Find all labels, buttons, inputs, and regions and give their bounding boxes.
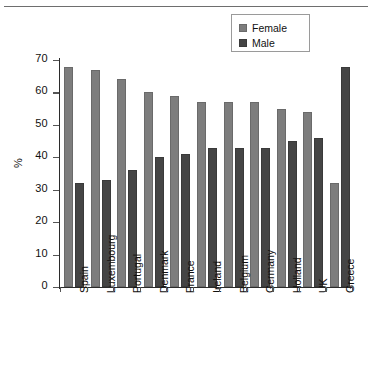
- x-axis-label: Spain: [78, 266, 90, 293]
- x-tick-mark: [272, 287, 273, 292]
- y-tick-label: 20: [35, 214, 48, 226]
- y-tick-label: 0: [42, 279, 48, 291]
- bar-group: [197, 60, 217, 287]
- male-swatch-icon: [239, 39, 247, 47]
- chart-legend: Female Male: [231, 14, 310, 52]
- y-tick-mark: [53, 92, 59, 93]
- bar-group: [303, 60, 323, 287]
- x-tick-mark: [219, 287, 220, 292]
- x-axis-label: Holland: [291, 257, 303, 293]
- legend-item-female: Female: [239, 20, 309, 35]
- y-tick-mark: [53, 157, 59, 158]
- x-axis-label: UK: [317, 278, 329, 293]
- bar-chart-figure: % 010203040506070 SpainLuxembourgPortuga…: [0, 0, 372, 368]
- x-axis-label: Portugal: [131, 254, 143, 293]
- female-swatch-icon: [239, 24, 247, 32]
- y-tick-label: 30: [35, 182, 48, 194]
- bar-female: [91, 70, 100, 287]
- bar-female: [250, 102, 259, 287]
- y-tick-mark: [53, 190, 59, 191]
- bar-female: [224, 102, 233, 287]
- y-axis-label: %: [12, 158, 24, 168]
- y-tick-mark: [53, 60, 59, 61]
- bar-female: [170, 96, 179, 287]
- bar-female: [117, 79, 126, 287]
- x-axis-label: Belgium: [238, 255, 250, 293]
- x-tick-mark: [246, 287, 247, 292]
- x-tick-mark: [87, 287, 88, 292]
- x-tick-mark: [140, 287, 141, 292]
- bar-female: [144, 92, 153, 287]
- x-tick-mark: [166, 287, 167, 292]
- bar-group: [64, 60, 84, 287]
- bar-female: [197, 102, 206, 287]
- y-tick-mark: [53, 255, 59, 256]
- x-axis-line: [59, 287, 353, 288]
- x-axis-label: Luxembourg: [105, 235, 117, 293]
- y-tick-mark: [53, 287, 59, 288]
- x-tick-mark: [352, 287, 353, 292]
- x-tick-mark: [299, 287, 300, 292]
- bar-group: [330, 60, 350, 287]
- bar-female: [64, 67, 73, 288]
- y-tick-label: 70: [35, 52, 48, 64]
- bar-female: [277, 109, 286, 287]
- y-tick-mark: [53, 222, 59, 223]
- x-axis-label: Greece: [344, 259, 356, 293]
- legend-item-male: Male: [239, 35, 309, 50]
- x-axis-label: Germany: [264, 250, 276, 293]
- bar-male: [341, 67, 350, 288]
- y-tick-mark: [53, 125, 59, 126]
- x-tick-mark: [193, 287, 194, 292]
- bar-male: [314, 138, 323, 287]
- x-tick-mark: [60, 287, 61, 292]
- y-tick-label: 50: [35, 117, 48, 129]
- bar-group: [224, 60, 244, 287]
- x-tick-mark: [113, 287, 114, 292]
- bar-female: [303, 112, 312, 287]
- x-axis-label: France: [184, 260, 196, 293]
- bar-group: [170, 60, 190, 287]
- legend-label-female: Female: [252, 22, 287, 34]
- bar-group: [277, 60, 297, 287]
- plot-area: [60, 60, 352, 287]
- x-axis-label: Ireland: [211, 261, 223, 293]
- y-tick-label: 60: [35, 84, 48, 96]
- x-tick-mark: [325, 287, 326, 292]
- bar-female: [330, 183, 339, 287]
- legend-label-male: Male: [252, 37, 275, 49]
- x-axis-label: Denmark: [158, 250, 170, 293]
- y-tick-label: 40: [35, 149, 48, 161]
- y-tick-label: 10: [35, 247, 48, 259]
